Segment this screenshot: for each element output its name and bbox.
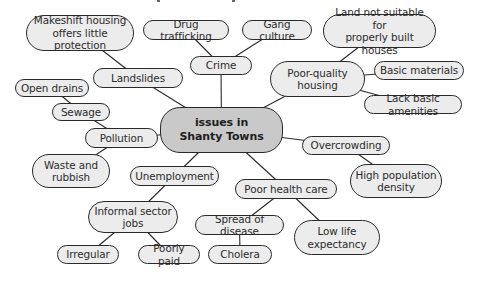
caption-glyph-fragment (157, 0, 160, 2)
node-gang-culture: Gang culture (242, 20, 312, 40)
node-spread-of-disease: Spread of disease (195, 215, 284, 235)
caption-glyph-fragment (232, 0, 235, 2)
node-poor-quality-housing: Poor-quality housing (270, 61, 365, 97)
node-unemployment: Unemployment (130, 166, 219, 186)
node-basic-materials: Basic materials (374, 61, 464, 80)
node-drug-trafficking: Drug trafficking (143, 20, 229, 40)
node-irregular: Irregular (57, 245, 119, 264)
node-crime: Crime (190, 56, 252, 75)
node-poorly-paid: Poorly paid (138, 245, 200, 264)
node-informal-sector-jobs: Informal sector jobs (88, 201, 178, 233)
node-overcrowding: Overcrowding (302, 136, 390, 155)
node-sewage: Sewage (52, 103, 110, 121)
node-waste-and-rubbish: Waste and rubbish (32, 154, 110, 188)
node-poor-health-care: Poor health care (235, 179, 337, 199)
node-pollution: Pollution (85, 128, 158, 148)
node-land-not-suitable: Land not suitable for properly built hou… (323, 14, 436, 48)
node-landslides: Landslides (93, 68, 183, 88)
node-low-life-expectancy: Low life expectancy (294, 220, 380, 255)
node-high-population-density: High population density (350, 164, 442, 198)
central-node-issues-in-shanty-towns: issues in Shanty Towns (160, 107, 283, 153)
cropped-caption-fragment (0, 0, 480, 4)
mind-map-diagram: issues in Shanty Towns Makeshift housing… (0, 0, 480, 283)
node-open-drains: Open drains (15, 79, 89, 97)
node-cholera: Cholera (208, 245, 272, 264)
node-lack-basic-amenities: Lack basic amenities (364, 95, 462, 114)
node-makeshift-housing: Makeshift housing offers little protecti… (26, 15, 134, 51)
